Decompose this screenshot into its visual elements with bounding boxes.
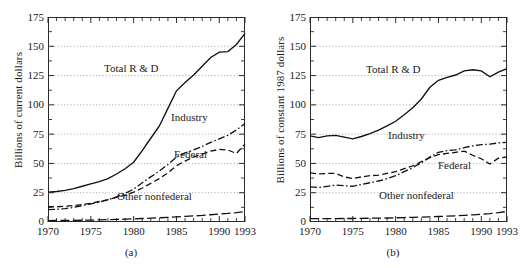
x-tick-1993: 1993 — [496, 226, 518, 237]
y-tick-50: 50 — [0, 158, 44, 169]
panel-a-y-tick-labels: 175 150 125 100 75 50 25 0 — [0, 17, 44, 222]
panel-b-caption: (b) — [262, 246, 524, 258]
y-tick-50: 50 — [262, 158, 306, 169]
panel-a: Billions of current dollars 175 150 125 … — [0, 0, 262, 268]
panel-a-label-federal: Federal — [174, 149, 207, 160]
panel-a-caption: (a) — [0, 246, 262, 258]
x-tick-1993: 1993 — [234, 226, 256, 237]
y-tick-125: 125 — [0, 70, 44, 81]
panel-b-x-tick-labels: 1970 1975 1980 1985 1990 1993 — [310, 226, 507, 242]
panel-b-y-tick-labels: 175 150 125 100 75 50 25 0 — [262, 17, 306, 222]
panel-b-label-total: Total R & D — [366, 64, 421, 75]
y-tick-100: 100 — [0, 99, 44, 110]
panel-a-plot-area: Total R & D Industry Federal Other nonfe… — [48, 17, 245, 222]
y-tick-175: 175 — [262, 12, 306, 23]
x-tick-1980: 1980 — [385, 226, 407, 237]
panel-b-plot-area: Total R & D Industry Federal Other nonfe… — [310, 17, 507, 222]
y-tick-125: 125 — [262, 70, 306, 81]
y-tick-25: 25 — [0, 187, 44, 198]
panel-b-label-other: Other nonfederal — [379, 190, 454, 201]
figure-container: Billions of current dollars 175 150 125 … — [0, 0, 524, 268]
x-tick-1975: 1975 — [80, 226, 102, 237]
y-tick-175: 175 — [0, 12, 44, 23]
y-tick-75: 75 — [262, 129, 306, 140]
y-tick-75: 75 — [0, 129, 44, 140]
x-tick-1985: 1985 — [166, 226, 188, 237]
panel-a-label-industry: Industry — [171, 112, 208, 123]
panel-a-label-other: Other nonfederal — [117, 191, 192, 202]
panel-b-label-industry: Industry — [388, 130, 425, 141]
panel-a-x-tick-labels: 1970 1975 1980 1985 1990 1993 — [48, 226, 245, 242]
x-tick-1970: 1970 — [37, 226, 59, 237]
panel-b-label-federal: Federal — [438, 160, 471, 171]
panel-a-label-total: Total R & D — [104, 63, 159, 74]
x-tick-1990: 1990 — [208, 226, 230, 237]
y-tick-25: 25 — [262, 187, 306, 198]
x-tick-1990: 1990 — [470, 226, 492, 237]
x-tick-1975: 1975 — [342, 226, 364, 237]
x-tick-1970: 1970 — [299, 226, 321, 237]
y-tick-150: 150 — [0, 41, 44, 52]
x-tick-1980: 1980 — [123, 226, 145, 237]
x-tick-1985: 1985 — [428, 226, 450, 237]
y-tick-150: 150 — [262, 41, 306, 52]
y-tick-100: 100 — [262, 99, 306, 110]
panel-b: Billions of constant 1987 dollars 175 15… — [262, 0, 524, 268]
